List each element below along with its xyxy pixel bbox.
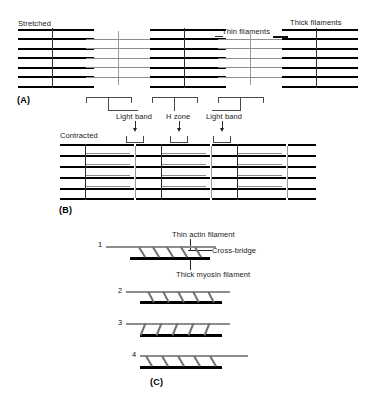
thick-myosin-filament-label: Thick myosin filament [176, 270, 250, 279]
step-number: 2 [118, 286, 122, 295]
thick-filament [282, 57, 358, 59]
m-line [287, 146, 288, 198]
thin-filament [86, 164, 130, 165]
thick-filament [18, 86, 94, 88]
thick-filaments-label: Thick filaments [290, 18, 342, 27]
thin-filament [238, 153, 282, 154]
thin-filament [162, 175, 206, 176]
thick-filament [18, 57, 94, 59]
thin-filament [86, 153, 130, 154]
thin-filament [86, 186, 130, 187]
panel-b-tag: (B) [59, 205, 72, 215]
thin-filament [86, 175, 130, 176]
thin-actin-filament-label: Thin actin filament [172, 230, 235, 239]
thick-filament [282, 48, 358, 50]
thick-filament [60, 144, 134, 146]
z-line [85, 144, 86, 200]
thick-myosin-filament [130, 257, 210, 260]
thin-filament [238, 186, 282, 187]
light-band-right-label: Light band [206, 112, 242, 121]
z-line [184, 28, 185, 88]
bracket-light-band-right [218, 97, 264, 104]
thick-filament [150, 67, 226, 69]
thick-filament [212, 177, 286, 179]
thick-filament [136, 198, 210, 200]
thick-filament [288, 144, 316, 146]
thick-filament [288, 155, 316, 157]
thick-filament [136, 177, 210, 179]
z-line [237, 144, 238, 200]
z-line [316, 28, 317, 88]
thick-filament [60, 166, 134, 168]
arrow-down-icon [177, 128, 181, 132]
thin-filaments-leader-left [215, 36, 223, 37]
thick-filament [60, 198, 134, 200]
thick-filament [18, 76, 94, 78]
bracket-b-h-zone [170, 136, 188, 143]
thin-filament [238, 175, 282, 176]
thick-filament [288, 166, 316, 168]
m-line [135, 146, 136, 198]
thin-filament [162, 186, 206, 187]
thick-myosin-filament-leader [190, 259, 191, 270]
cross-bridge-leader [188, 250, 212, 251]
thick-filament [18, 38, 94, 40]
thin-filaments-label: Thin filaments [222, 27, 270, 36]
thick-filament [150, 48, 226, 50]
m-line [211, 146, 212, 198]
m-line [118, 31, 119, 85]
thick-filament [212, 144, 286, 146]
thick-filament [282, 38, 358, 40]
thick-filament [60, 188, 134, 190]
thick-filament [212, 188, 286, 190]
thick-filament [60, 177, 134, 179]
thick-filament [288, 177, 316, 179]
figure-canvas: Stretched Thin filaments Thick filaments [0, 0, 376, 399]
arrow-down-icon [133, 128, 137, 132]
thick-filament [18, 48, 94, 50]
m-line [250, 31, 251, 85]
thick-filament [150, 76, 226, 78]
step-number: 1 [98, 240, 102, 249]
thin-filament [162, 153, 206, 154]
thick-filament [288, 188, 316, 190]
thick-filament [136, 188, 210, 190]
thick-filament [282, 86, 358, 88]
panel-b-state-label: Contracted [60, 131, 98, 140]
thick-myosin-filament [140, 334, 222, 337]
thin-filament [238, 164, 282, 165]
thick-myosin-filament [140, 366, 222, 369]
thick-filament [150, 29, 226, 31]
cross-bridge-label: Cross-bridge [212, 246, 256, 255]
thick-filament [282, 67, 358, 69]
panel-a-state-label: Stretched [18, 19, 51, 28]
thick-filament [288, 198, 316, 200]
thick-filament [282, 29, 358, 31]
thick-filament [212, 198, 286, 200]
step-number: 3 [118, 318, 122, 327]
panel-c-tag: (C) [150, 377, 163, 387]
bracket-light-band-left [86, 97, 132, 104]
h-zone-label: H zone [166, 112, 190, 121]
arrow-down-icon [220, 128, 224, 132]
bracket-b-light-band-left [126, 136, 144, 143]
thick-filament [150, 38, 226, 40]
thick-filament [212, 166, 286, 168]
thick-filament [136, 166, 210, 168]
thick-filament [136, 155, 210, 157]
thick-filament [150, 86, 226, 88]
thick-filament [60, 155, 134, 157]
bracket-h-zone [152, 97, 198, 104]
light-band-left-label: Light band [116, 112, 152, 121]
step-number: 4 [132, 350, 136, 359]
thin-filament [162, 164, 206, 165]
z-line [52, 28, 53, 88]
thin-actin-filament [106, 246, 216, 248]
thick-filament [212, 155, 286, 157]
thick-filament [18, 67, 94, 69]
bracket-b-light-band-right [213, 136, 231, 143]
z-line [161, 144, 162, 200]
thick-filament [18, 29, 94, 31]
thick-filament [136, 144, 210, 146]
thick-filament [150, 57, 226, 59]
